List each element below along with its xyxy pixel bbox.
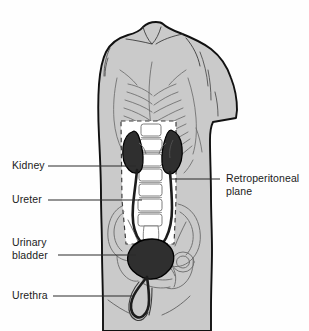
- label-urinary-bladder: Urinary bladder: [12, 236, 48, 261]
- diagram-canvas: Kidney Ureter Urinary bladder Urethra Re…: [0, 0, 309, 331]
- bladder: [128, 239, 174, 279]
- label-kidney: Kidney: [12, 159, 45, 172]
- label-urethra: Urethra: [12, 289, 48, 302]
- bladder-shape: [128, 239, 174, 279]
- label-retroperitoneal-plane: Retroperitoneal plane: [226, 172, 299, 197]
- anatomy-figure: [0, 0, 309, 331]
- label-ureter: Ureter: [12, 193, 42, 206]
